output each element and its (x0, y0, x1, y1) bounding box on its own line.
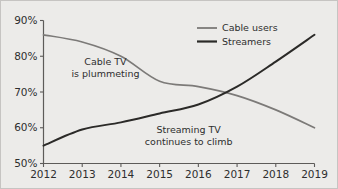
cable-annotation-line1: Cable TV (84, 56, 127, 67)
x-tick-label: 2016 (185, 168, 212, 180)
y-tick-label: 60% (14, 121, 37, 133)
chart-legend: Cable usersStreamers (197, 22, 278, 47)
x-tick-label: 2017 (224, 168, 251, 180)
streaming-annotation-line1: Streaming TV (156, 124, 221, 135)
y-tick-label: 90% (14, 14, 37, 26)
x-tick-label: 2014 (108, 168, 135, 180)
y-tick-label: 80% (14, 50, 37, 62)
y-tick-label: 70% (14, 86, 37, 98)
legend-label: Cable users (222, 22, 278, 33)
streaming-annotation-line2: continues to climb (145, 136, 233, 147)
x-tick-label: 2015 (146, 168, 173, 180)
x-tick-label: 2013 (69, 168, 96, 180)
x-tick-label: 2019 (301, 168, 328, 180)
x-axis-tick-labels: 20122013201420152016201720182019 (30, 168, 328, 180)
x-tick-label: 2018 (262, 168, 289, 180)
cable-annotation-line2: is plummeting (71, 68, 139, 79)
y-axis-tick-labels: 50%60%70%80%90% (14, 14, 37, 169)
series-line-cable-users (44, 35, 315, 128)
legend-label: Streamers (222, 36, 271, 47)
x-tick-label: 2012 (30, 168, 57, 180)
line-chart: 50%60%70%80%90% 201220132014201520162017… (1, 1, 338, 189)
chart-figure: 50%60%70%80%90% 201220132014201520162017… (0, 0, 338, 189)
